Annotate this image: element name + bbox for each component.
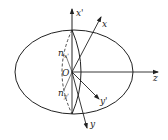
n-x-prime-label: nx' xyxy=(58,48,69,59)
x-axis xyxy=(72,17,101,72)
y-axis xyxy=(72,72,87,128)
x-label: x xyxy=(102,19,107,29)
y-prime-label: y' xyxy=(99,96,108,106)
y-label: y xyxy=(89,119,96,129)
z-label: z xyxy=(152,73,158,83)
origin-label: O xyxy=(62,68,70,78)
ellipsoid-diagram: x' x z y' y O nx' ny' xyxy=(0,0,168,140)
n-y-prime-label: ny' xyxy=(58,88,69,100)
x-prime-label: x' xyxy=(76,8,84,18)
